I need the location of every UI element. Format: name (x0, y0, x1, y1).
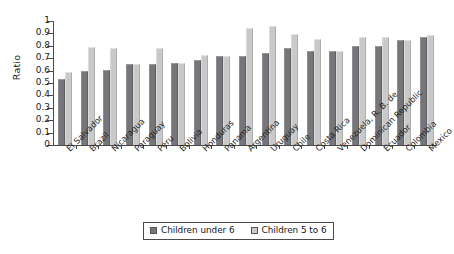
y-axis-tick-label: 1 (44, 15, 50, 26)
bar (110, 48, 117, 145)
bar-group (103, 21, 117, 145)
light-gray-swatch-icon (251, 227, 258, 234)
bar-group (307, 21, 321, 145)
bar (58, 79, 65, 145)
legend-item-children-under-6: Children under 6 (150, 225, 235, 236)
legend-label: Children 5 to 6 (262, 225, 327, 236)
y-axis-tick-label: 0.1 (36, 127, 50, 138)
legend-item-children-5-to-6: Children 5 to 6 (251, 225, 327, 236)
bar-group (171, 21, 185, 145)
bar (314, 39, 321, 145)
dark-gray-swatch-icon (150, 227, 157, 234)
y-axis-line (53, 21, 54, 145)
chart-legend: Children under 6 Children 5 to 6 (143, 222, 334, 240)
y-axis-tick-label: 0.6 (36, 65, 50, 76)
y-axis-tick-label: 0.8 (36, 40, 50, 51)
y-axis-tick-label: 0.9 (36, 27, 50, 38)
y-axis-tick-label: 0.2 (36, 114, 50, 125)
y-axis-title: Ratio (11, 38, 22, 98)
legend-label: Children under 6 (161, 225, 235, 236)
bar (65, 72, 72, 145)
bar (307, 51, 314, 145)
y-axis-tick-label: 0.5 (36, 77, 50, 88)
bar-group (58, 21, 72, 145)
x-axis-labels: El SalvadorBrazilNicaraguaParaguayPeruBo… (53, 147, 443, 209)
y-axis-tick-label: 0 (44, 139, 50, 150)
bar (171, 63, 178, 145)
y-axis-tick-label: 0.7 (36, 52, 50, 63)
y-axis-tick-label: 0.4 (36, 89, 50, 100)
bar (178, 63, 185, 145)
y-axis-tick-label: 0.3 (36, 102, 50, 113)
